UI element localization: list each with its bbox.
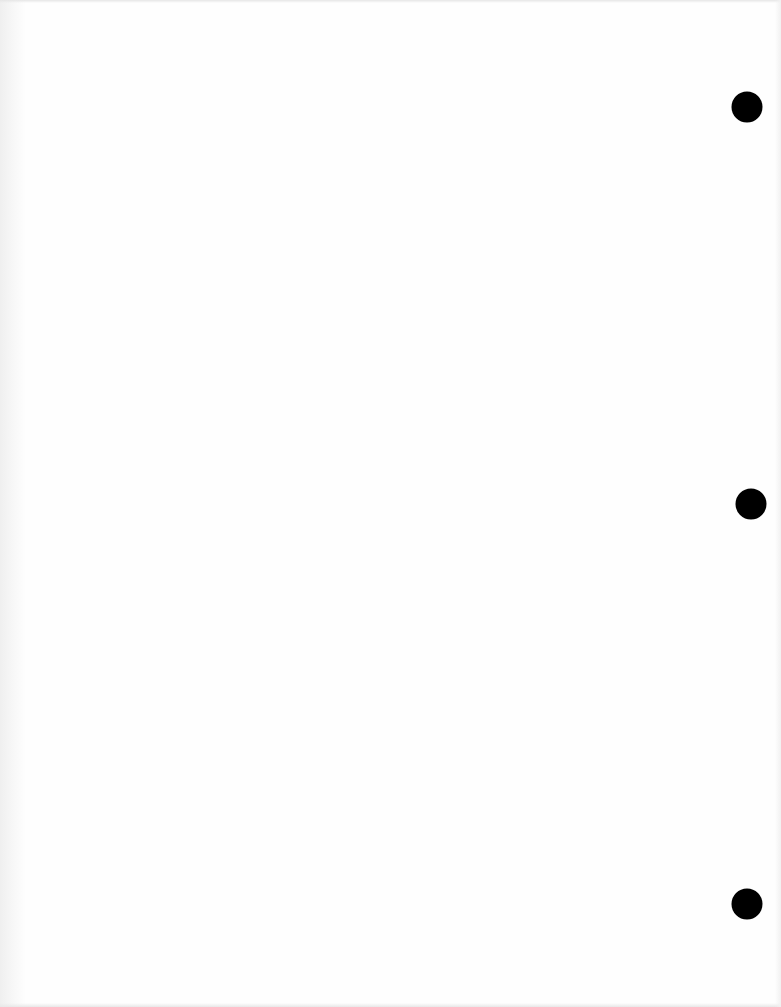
blank-paper-sheet [0, 0, 781, 1007]
punch-hole-bottom [732, 889, 763, 920]
punch-hole-top [732, 92, 763, 123]
punch-hole-middle [736, 489, 767, 520]
right-edge-shadow [775, 0, 781, 1007]
top-edge-shadow [0, 0, 781, 3]
left-edge-shadow [0, 0, 26, 1007]
bottom-edge-shadow [0, 1003, 781, 1007]
